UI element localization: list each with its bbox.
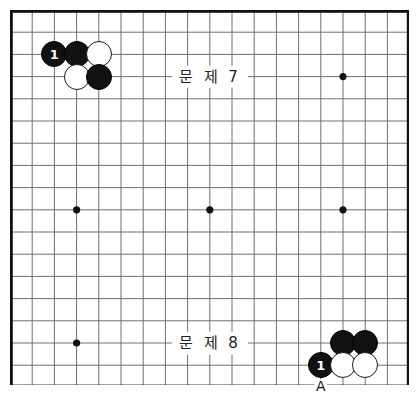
caption-problem-8: 문 제 8: [172, 332, 248, 355]
go-problem-figure: 11 A 문 제 7문 제 8: [0, 0, 418, 404]
caption-problem-7: 문 제 7: [172, 65, 248, 88]
star-point: [73, 206, 80, 213]
stone-move-number: 1: [316, 359, 325, 372]
star-point: [73, 339, 80, 346]
stone-white[interactable]: [352, 352, 378, 378]
stone-move-number: 1: [50, 48, 59, 61]
star-point: [339, 206, 346, 213]
star-point: [206, 206, 213, 213]
point-marker-letter: A: [314, 380, 328, 395]
star-point: [339, 73, 346, 80]
go-board[interactable]: 11 A 문 제 7문 제 8: [10, 10, 409, 385]
stone-black[interactable]: [86, 64, 112, 90]
